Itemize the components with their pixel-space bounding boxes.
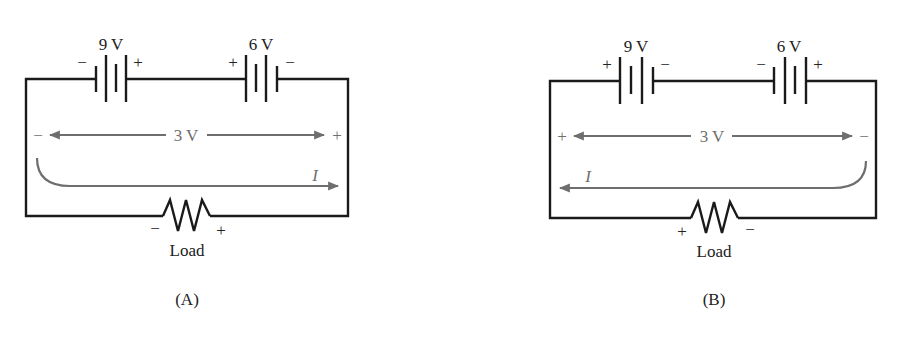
net-voltage-right-sign: − <box>859 127 869 146</box>
current-arrow <box>560 161 866 188</box>
load-label: Load <box>697 242 732 261</box>
battery-6v-right-sign: − <box>285 53 295 72</box>
battery-9v-right-sign: − <box>660 55 670 74</box>
current-arrow <box>37 158 338 186</box>
net-voltage-left-sign: − <box>33 126 43 145</box>
battery-6v-label: 6 V <box>777 37 802 56</box>
circuit-figure: 9 V 6 V − + + − 3 V − + I − + Load (A) <box>0 0 904 337</box>
wire-loop <box>550 81 876 218</box>
battery-6v-left-sign: + <box>228 53 238 72</box>
battery-6v <box>774 57 806 104</box>
circuit-b: 9 V 6 V + − − + 3 V + − I + − Load (B) <box>550 37 876 309</box>
battery-6v-left-sign: − <box>756 55 766 74</box>
net-voltage-label: 3 V <box>700 127 725 146</box>
net-voltage-label: 3 V <box>174 126 199 145</box>
current-label: I <box>311 166 319 185</box>
battery-6v-label: 6 V <box>249 35 274 54</box>
load-right-sign: + <box>216 221 226 240</box>
wire-loop <box>26 79 348 216</box>
load-label: Load <box>170 241 205 260</box>
load-resistor <box>163 200 210 231</box>
load-left-sign: + <box>677 222 687 241</box>
battery-9v-label: 9 V <box>624 37 649 56</box>
net-voltage-right-sign: + <box>332 126 342 145</box>
circuit-a: 9 V 6 V − + + − 3 V − + I − + Load (A) <box>26 35 348 309</box>
battery-9v-label: 9 V <box>99 35 124 54</box>
load-resistor <box>691 202 738 233</box>
battery-9v-right-sign: + <box>133 53 143 72</box>
caption-b: (B) <box>703 290 726 309</box>
battery-6v-right-sign: + <box>813 55 823 74</box>
battery-9v-left-sign: + <box>602 55 612 74</box>
current-label: I <box>584 167 592 186</box>
battery-6v <box>246 55 277 102</box>
net-voltage-left-sign: + <box>557 127 567 146</box>
battery-9v <box>620 57 653 104</box>
battery-9v-left-sign: − <box>77 53 87 72</box>
battery-9v <box>96 55 126 102</box>
load-left-sign: − <box>150 219 160 238</box>
load-right-sign: − <box>745 220 755 239</box>
caption-a: (A) <box>175 290 199 309</box>
